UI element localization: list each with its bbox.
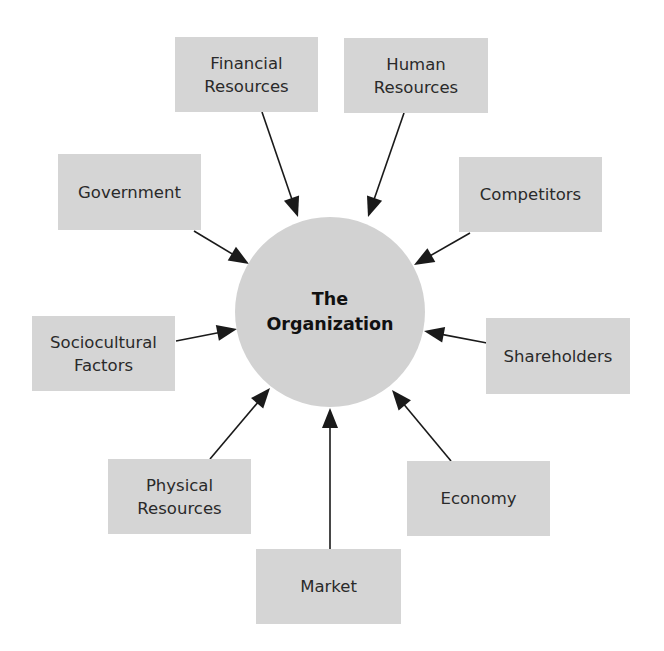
arrowhead-icon — [424, 327, 445, 343]
node-label: Shareholders — [504, 345, 613, 368]
node-label: Human Resources — [374, 53, 458, 99]
node-label: Physical Resources — [137, 474, 221, 520]
arrowhead-icon — [322, 408, 338, 428]
node-human-resources: Human Resources — [344, 38, 488, 113]
arrowhead-icon — [367, 195, 382, 217]
arrow-financial — [262, 112, 295, 208]
center-label: The Organization — [266, 287, 393, 337]
arrow-physical — [210, 396, 264, 459]
node-label: Economy — [441, 487, 517, 510]
node-government: Government — [58, 154, 201, 230]
arrowhead-icon — [228, 247, 249, 264]
arrowhead-icon — [392, 390, 411, 410]
arrowhead-icon — [414, 248, 435, 265]
arrowhead-icon — [251, 388, 270, 408]
arrowhead-icon — [216, 325, 237, 341]
node-market: Market — [256, 549, 401, 624]
node-label: Sociocultural Factors — [50, 331, 157, 377]
organization-environment-diagram: The Organization Financial Resources Hum… — [0, 0, 664, 651]
node-label: Government — [78, 181, 181, 204]
node-economy: Economy — [407, 461, 550, 536]
node-financial-resources: Financial Resources — [175, 37, 318, 112]
node-label: Competitors — [480, 183, 581, 206]
arrowhead-icon — [284, 195, 299, 217]
arrow-human — [371, 113, 404, 208]
node-physical-resources: Physical Resources — [108, 459, 251, 534]
arrow-economy — [398, 398, 451, 461]
node-sociocultural-factors: Sociocultural Factors — [32, 316, 175, 391]
node-label: Financial Resources — [204, 52, 288, 98]
node-shareholders: Shareholders — [486, 318, 630, 394]
node-label: Market — [300, 575, 357, 598]
node-competitors: Competitors — [459, 157, 602, 232]
center-node-the-organization: The Organization — [235, 217, 425, 407]
